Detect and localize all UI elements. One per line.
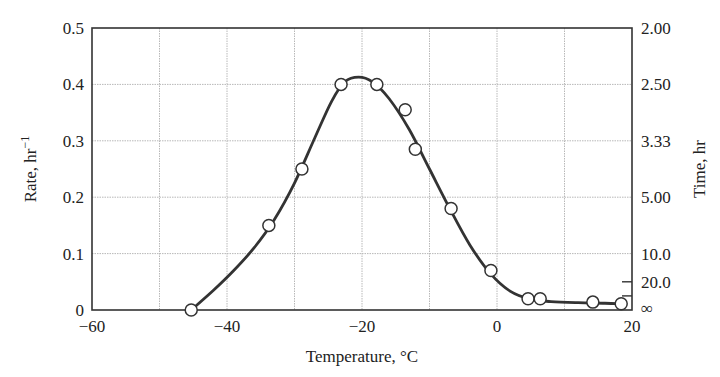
data-point-marker [615,298,627,310]
right-axis-label: Time, hr [690,140,709,198]
x-tick-label: −20 [349,317,376,336]
y-axis-label: Rate, hr−1 [18,136,40,203]
y-axis-tick-labels: 00.10.20.30.40.5 [63,19,85,320]
data-point-marker [409,143,421,155]
y-tick-label: 0.3 [63,132,84,151]
grid-lines [92,28,632,310]
data-point-marker [522,293,534,305]
y-tick-label: 0.4 [63,75,85,94]
rate-vs-temperature-chart: −60−40−20020 00.10.20.30.40.5 2.002.503.… [0,0,720,377]
right-axis-tick-label: 5.00 [641,188,671,207]
infinity-tick-label: ∞ [641,299,653,318]
right-axis-minor-ticks [622,282,632,296]
right-axis-tick-label: 2.50 [641,75,671,94]
y-tick-label: 0 [76,301,85,320]
right-axis-tick-labels: 2.002.503.335.0010.020.0∞ [641,19,671,318]
data-point-marker [587,296,599,308]
y-tick-label: 0.5 [63,19,84,38]
x-axis-tick-labels: −60−40−20020 [79,317,641,336]
data-point-marker [263,219,275,231]
data-point-marker [399,104,411,116]
data-point-marker [185,304,197,316]
data-point-marker [485,265,497,277]
x-axis-label: Temperature, °C [306,347,418,366]
x-tick-label: 20 [624,317,641,336]
y-tick-label: 0.2 [63,188,84,207]
right-axis-tick-label: 20.0 [641,273,671,292]
right-axis-tick-label: 10.0 [641,245,671,264]
data-point-marker [371,78,383,90]
data-point-marker [296,163,308,175]
y-axis-label-text: Rate, hr [21,148,40,202]
right-axis-tick-label: 3.33 [641,132,671,151]
x-tick-label: −40 [214,317,241,336]
y-axis-label-superscript: −1 [18,136,32,149]
data-point-marker [534,293,546,305]
data-point-marker [335,78,347,90]
x-tick-label: 0 [493,317,502,336]
right-axis-tick-label: 2.00 [641,19,671,38]
y-tick-label: 0.1 [63,245,84,264]
data-point-marker [445,202,457,214]
